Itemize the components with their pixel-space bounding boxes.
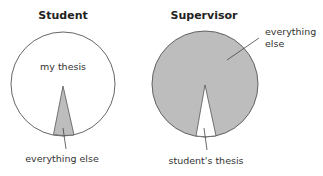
student-my-thesis-label: my thesis xyxy=(40,61,86,72)
pie-comparison-diagram: Student my thesis everything else Superv… xyxy=(0,0,323,176)
student-everything-else-label: everything else xyxy=(25,153,99,164)
student-pie: Student my thesis everything else xyxy=(11,9,115,164)
supervisor-everything-label-line2: else xyxy=(265,38,284,49)
supervisor-pie: Supervisor everything else student's the… xyxy=(152,9,316,166)
supervisor-students-thesis-label: student's thesis xyxy=(168,155,243,166)
supervisor-title: Supervisor xyxy=(171,9,239,22)
student-title: Student xyxy=(38,9,87,22)
supervisor-everything-label-line1: everything xyxy=(265,26,316,37)
